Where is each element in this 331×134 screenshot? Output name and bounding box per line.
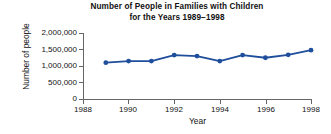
data-point: [240, 53, 245, 58]
data-point: [195, 54, 200, 59]
data-point: [126, 59, 131, 64]
data-series-plot: [0, 0, 331, 134]
data-point: [309, 48, 314, 53]
data-point: [286, 52, 291, 57]
data-point: [172, 53, 177, 58]
chart-figure: Number of People in Families with Childr…: [0, 0, 331, 134]
data-point: [217, 59, 222, 64]
data-point: [263, 55, 268, 60]
series-line: [106, 50, 311, 63]
data-point: [103, 60, 108, 65]
data-point: [149, 59, 154, 64]
